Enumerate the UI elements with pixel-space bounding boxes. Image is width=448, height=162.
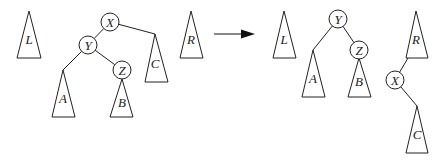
subtree-c-before: C — [145, 34, 168, 82]
subtree-label: B — [355, 74, 363, 89]
subtree-label: R — [411, 32, 420, 47]
subtree-l-before: L — [17, 11, 41, 58]
arrow-head-icon — [241, 30, 255, 39]
tree-rotation-diagram: LRABCXYZLABRCYZX — [0, 0, 448, 162]
node-y-after: Y — [329, 10, 347, 28]
edge-y-z-before — [95, 50, 114, 64]
node-x-before: X — [101, 13, 119, 31]
subtree-label: C — [151, 56, 160, 71]
subtree-label: A — [308, 71, 317, 86]
node-label: X — [105, 15, 115, 30]
subtree-label: L — [24, 32, 32, 47]
subtree-b-before: B — [110, 79, 133, 117]
subtree-l-after: L — [273, 11, 296, 58]
node-label: X — [390, 73, 400, 88]
node-z-after: Z — [350, 41, 368, 59]
edge-r-x-after — [400, 58, 408, 72]
subtree-label: A — [58, 91, 67, 106]
edge-y-a-before — [63, 51, 82, 70]
edge-y-a-after — [313, 26, 332, 50]
diagram-canvas: LRABCXYZLABRCYZX — [0, 0, 448, 162]
subtree-a-after: A — [302, 50, 325, 97]
subtree-r-before: R — [180, 11, 203, 58]
subtree-a-before: A — [52, 70, 75, 117]
transform-arrow — [214, 30, 255, 39]
edge-x-c-before — [119, 24, 155, 34]
subtree-b-after: B — [348, 58, 371, 97]
node-z-before: Z — [113, 61, 131, 79]
subtree-label: C — [413, 127, 422, 142]
node-label: Z — [355, 43, 363, 58]
subtree-label: R — [186, 32, 195, 47]
node-y-before: Y — [79, 36, 97, 54]
subtree-c-after: C — [406, 106, 428, 153]
edge-x-y-before — [94, 29, 104, 39]
edge-x-c-after — [401, 87, 417, 106]
node-label: Z — [118, 63, 126, 78]
subtree-label: L — [279, 32, 287, 47]
shapes-layer: LRABCXYZLABRCYZX — [17, 10, 428, 153]
subtree-r-after: R — [406, 11, 428, 58]
node-x-after: X — [386, 71, 404, 89]
edge-y-z-after — [343, 26, 354, 42]
subtree-label: B — [118, 95, 126, 110]
